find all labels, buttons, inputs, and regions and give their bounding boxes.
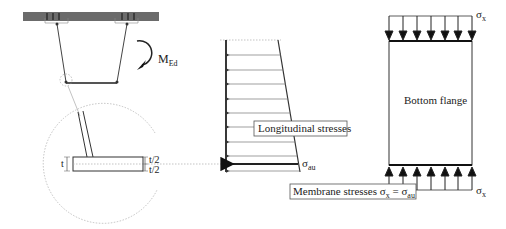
bending-moment: MEd [137,41,178,70]
longitudinal-stress-diagram: σau Longitudinal stresses [220,40,351,172]
moment-arrow-icon [137,41,152,65]
moment-label: MEd [158,52,178,68]
concrete-deck [23,12,159,21]
web-right [117,24,127,82]
detail-leader-line [68,86,80,116]
thickness-label: t [61,158,64,169]
top-load-arrows [385,16,476,40]
longitudinal-stresses-label: Longitudinal stresses [258,122,351,134]
diagram-canvas: MEd t t/2 t/2 [0,0,506,229]
web-left [57,24,66,82]
bottom-flange-plate: σx Bottom flange σx [385,8,486,199]
sigma-au-label: σau [302,157,316,172]
half-thickness-bottom-label: t/2 [149,164,160,175]
bottom-flange-label: Bottom flange [404,94,467,106]
box-girder-cross-section [23,12,159,116]
stress-envelope [278,40,300,172]
membrane-stresses-box: Membrane stresses σx = σau [290,184,416,200]
bottom-sigma-x-label: σx [476,184,486,199]
top-sigma-x-label: σx [476,8,486,23]
flange-detail: t t/2 t/2 [43,103,235,223]
